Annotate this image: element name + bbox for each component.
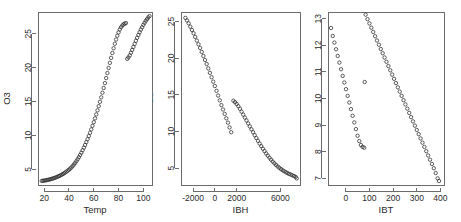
- data-point: [409, 115, 412, 118]
- data-point: [187, 22, 190, 25]
- data-point: [394, 81, 397, 84]
- data-point: [421, 141, 424, 144]
- x-tick-label: 400: [433, 193, 447, 203]
- data-point: [344, 87, 347, 90]
- data-point: [91, 124, 94, 127]
- data-point: [349, 107, 352, 110]
- x-tick-label: 100: [362, 193, 376, 203]
- data-point: [100, 96, 103, 99]
- data-point: [336, 54, 339, 57]
- data-point: [379, 47, 382, 50]
- y-tick-label: 25: [23, 29, 33, 39]
- data-point: [434, 171, 437, 174]
- data-point: [329, 26, 332, 29]
- data-point: [197, 43, 200, 46]
- data-point: [348, 101, 351, 104]
- series-outlier: [363, 80, 366, 83]
- x-tick-label: 80: [114, 193, 124, 203]
- data-point: [402, 98, 405, 101]
- y-axis-title: O3: [153, 92, 155, 105]
- data-point: [200, 50, 203, 53]
- panel-temp: 51015202520406080100TempO3: [0, 0, 155, 222]
- data-point: [364, 13, 367, 16]
- data-point: [220, 103, 223, 106]
- data-point: [189, 25, 192, 28]
- data-point: [372, 30, 375, 33]
- data-point: [195, 39, 198, 42]
- data-point: [375, 39, 378, 42]
- data-point: [389, 69, 392, 72]
- data-point: [202, 54, 205, 57]
- data-point: [354, 127, 357, 130]
- data-point: [396, 86, 399, 89]
- x-tick-label: 0: [212, 193, 217, 203]
- y-tick-label: 5: [166, 166, 176, 171]
- data-point: [230, 131, 233, 134]
- data-point: [103, 81, 106, 84]
- data-point: [400, 94, 403, 97]
- x-tick-label: 2000: [227, 193, 246, 203]
- y-tick-label: 9: [313, 122, 323, 127]
- data-point: [218, 99, 221, 102]
- x-axis-title: IBT: [379, 204, 394, 215]
- series-branch-upper: [126, 14, 152, 60]
- x-tick-label: 200: [386, 193, 400, 203]
- data-point: [215, 89, 218, 92]
- y-tick-label: 15: [166, 90, 176, 100]
- y-tick-label: 13: [313, 14, 323, 24]
- data-point: [192, 32, 195, 35]
- data-point: [398, 90, 401, 93]
- series-branch-lower-right: [232, 99, 299, 180]
- data-point: [208, 71, 211, 74]
- data-point: [112, 47, 115, 50]
- data-point: [96, 109, 99, 112]
- data-point: [381, 52, 384, 55]
- data-point: [339, 68, 342, 71]
- data-point: [413, 124, 416, 127]
- data-point: [351, 114, 354, 117]
- data-point: [387, 64, 390, 67]
- data-point: [104, 76, 107, 79]
- data-point: [111, 51, 114, 54]
- data-point: [346, 94, 349, 97]
- data-point: [417, 132, 420, 135]
- y-tick-label: 5: [23, 167, 33, 172]
- x-tick-label: 40: [64, 193, 74, 203]
- data-point: [358, 139, 361, 142]
- data-point: [212, 80, 215, 83]
- data-point: [373, 35, 376, 38]
- data-point: [338, 61, 341, 64]
- x-tick-label: 0: [343, 193, 348, 203]
- data-point: [432, 167, 435, 170]
- data-point: [353, 121, 356, 124]
- series-branch-left: [329, 26, 366, 149]
- y-tick-label: 15: [23, 97, 33, 107]
- data-point: [93, 117, 96, 120]
- x-tick-label: 100: [136, 193, 150, 203]
- data-point: [408, 111, 411, 114]
- data-point: [356, 134, 359, 137]
- data-point: [430, 162, 433, 165]
- y-tick-label: 11: [313, 67, 323, 76]
- multi-panel-scatter-figure: 51015202520406080100TempO3 510152025-200…: [0, 0, 461, 222]
- data-point: [415, 128, 418, 131]
- data-point: [190, 28, 193, 31]
- x-tick-label: 60: [89, 193, 99, 203]
- plot-area-ibt: 789101112130100200300400IBTO3: [303, 0, 461, 222]
- x-tick-label: 6000: [271, 193, 290, 203]
- data-point: [428, 158, 431, 161]
- series-branch-lower: [40, 21, 128, 182]
- data-point: [106, 71, 109, 74]
- y-tick-label: 7: [313, 176, 323, 181]
- data-point: [411, 120, 414, 123]
- x-axis-title: Temp: [83, 204, 106, 215]
- data-point: [377, 43, 380, 46]
- data-point: [225, 117, 228, 120]
- data-point: [216, 94, 219, 97]
- data-point: [383, 56, 386, 59]
- data-point: [333, 41, 336, 44]
- data-point: [343, 81, 346, 84]
- panel-ibh: 510152025-2000020006000IBHO3: [153, 0, 305, 222]
- y-tick-label: 20: [166, 53, 176, 63]
- data-point: [368, 22, 371, 25]
